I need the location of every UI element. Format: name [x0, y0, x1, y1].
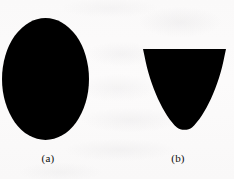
figure-container: (a) (b): [0, 0, 234, 179]
figure-shapes-canvas: [0, 0, 234, 179]
parabola-shape-b: [143, 49, 226, 130]
ellipse-shape-a: [2, 18, 89, 140]
figure-label-b: (b): [171, 152, 184, 164]
figure-label-a: (a): [42, 152, 55, 164]
